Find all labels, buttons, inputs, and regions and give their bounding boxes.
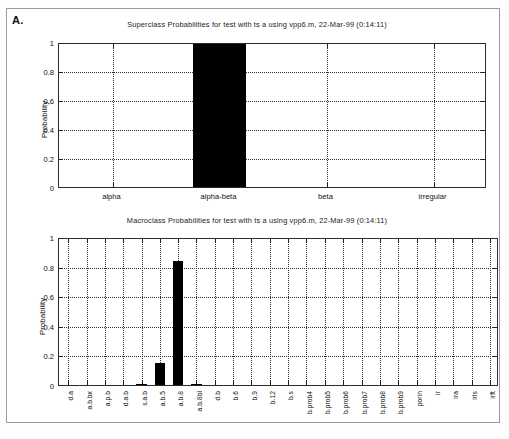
- x-axis-tick-label: a.p.b: [103, 391, 110, 406]
- gridline-vertical: [142, 239, 143, 385]
- y-axis-tick: [59, 327, 63, 328]
- gridline-vertical: [251, 239, 252, 385]
- x-axis-tick-label: s.a.b: [140, 391, 147, 406]
- x-axis-tick: [343, 381, 344, 385]
- x-axis-tick: [233, 239, 234, 243]
- gridline-horizontal: [59, 43, 485, 44]
- gridline-vertical: [270, 239, 271, 385]
- y-axis-tick-label: 1: [50, 39, 54, 48]
- gridline-vertical: [472, 239, 473, 385]
- gridline-horizontal: [59, 101, 485, 102]
- x-axis-tick-label: b.prob8: [378, 391, 385, 414]
- gridline-horizontal: [59, 72, 485, 73]
- gridline-vertical: [453, 239, 454, 385]
- gridline-vertical: [435, 239, 436, 385]
- y-axis-tick: [481, 130, 485, 131]
- x-axis-tick: [87, 381, 88, 385]
- gridline-vertical: [362, 239, 363, 385]
- y-axis-tick: [493, 268, 497, 269]
- bar: [193, 43, 247, 187]
- x-axis-tick: [362, 239, 363, 243]
- gridline-vertical: [288, 239, 289, 385]
- x-axis-tick-label: a.b.5: [158, 391, 165, 406]
- gridline-vertical: [233, 239, 234, 385]
- x-axis-tick-label: b.12: [268, 391, 275, 404]
- x-axis-tick: [306, 239, 307, 243]
- x-axis-tick: [270, 239, 271, 243]
- x-axis-tick: [68, 239, 69, 243]
- x-axis-tick-label: porin: [415, 391, 422, 406]
- superclass-plot-area: 00.20.40.60.81: [58, 43, 486, 188]
- superclass-plot: [58, 43, 486, 188]
- x-axis-tick-label: b.9: [250, 391, 257, 400]
- y-axis-tick: [59, 356, 63, 357]
- gridline-vertical: [196, 239, 197, 385]
- x-axis-tick: [380, 239, 381, 243]
- gridline-vertical: [306, 239, 307, 385]
- x-axis-tick: [215, 239, 216, 243]
- caption-strip: [10, 425, 430, 437]
- x-axis-tick-label: b.prob5: [323, 391, 330, 414]
- macroclass-y-axis-label: Probability: [38, 298, 47, 335]
- y-axis-tick: [59, 159, 63, 160]
- x-axis-tick: [123, 381, 124, 385]
- bar: [136, 384, 146, 385]
- x-axis-tick: [251, 381, 252, 385]
- gridline-vertical: [87, 239, 88, 385]
- x-axis-tick: [288, 239, 289, 243]
- y-axis-tick: [59, 130, 63, 131]
- x-axis-tick-label: b.s: [287, 391, 294, 400]
- x-axis-tick-label: d.a.b: [122, 391, 129, 406]
- x-axis-tick: [343, 239, 344, 243]
- y-axis-tick-label: 0.2: [43, 352, 54, 361]
- x-axis-tick: [123, 239, 124, 243]
- gridline-horizontal: [59, 130, 485, 131]
- gridline-vertical: [68, 239, 69, 385]
- x-axis-tick: [196, 239, 197, 243]
- gridline-vertical: [417, 239, 418, 385]
- x-axis-tick: [435, 239, 436, 243]
- gridline-horizontal: [59, 268, 497, 269]
- x-axis-tick: [142, 239, 143, 243]
- gridline-horizontal: [59, 238, 497, 239]
- x-axis-tick-label: irregular: [419, 192, 447, 201]
- y-axis-tick: [493, 356, 497, 357]
- gridline-vertical: [113, 44, 114, 187]
- y-axis-tick: [481, 43, 485, 44]
- x-axis-tick: [160, 239, 161, 243]
- x-axis-tick-label: ira: [452, 391, 459, 399]
- x-axis-tick-label: irft: [488, 391, 495, 399]
- y-axis-tick-label: 0.8: [43, 68, 54, 77]
- x-axis-tick: [435, 381, 436, 385]
- y-axis-tick: [59, 43, 63, 44]
- x-axis-tick: [434, 44, 435, 48]
- x-axis-tick-label: b.prob6: [342, 391, 349, 414]
- x-axis-tick: [113, 183, 114, 187]
- x-axis-tick: [434, 183, 435, 187]
- y-axis-tick-label: 1: [50, 234, 54, 243]
- macroclass-chart: Macroclass Probabilities for test with t…: [18, 216, 496, 421]
- x-axis-tick-label: a.b.8: [177, 391, 184, 406]
- y-axis-tick: [59, 238, 63, 239]
- gridline-vertical: [123, 239, 124, 385]
- x-axis-tick: [113, 44, 114, 48]
- bar: [155, 363, 165, 385]
- x-axis-tick-label: ir: [433, 391, 440, 395]
- x-axis-tick: [288, 381, 289, 385]
- x-axis-tick: [472, 239, 473, 243]
- x-axis-tick: [270, 381, 271, 385]
- gridline-horizontal: [59, 356, 497, 357]
- x-axis-tick-label: b.prob7: [360, 391, 367, 414]
- macroclass-plot-area: 00.20.40.60.81: [58, 238, 498, 386]
- superclass-y-axis-label: Probability: [40, 101, 49, 138]
- y-axis-tick: [493, 238, 497, 239]
- x-axis-tick: [327, 183, 328, 187]
- x-axis-tick-label: a.b.8bl: [195, 391, 202, 412]
- x-axis-tick: [380, 381, 381, 385]
- gridline-vertical: [325, 239, 326, 385]
- gridline-horizontal: [59, 327, 497, 328]
- superclass-chart: Superclass Probabilities for test with t…: [18, 20, 496, 200]
- bar: [191, 384, 201, 385]
- y-axis-tick: [481, 159, 485, 160]
- x-axis-tick: [105, 239, 106, 243]
